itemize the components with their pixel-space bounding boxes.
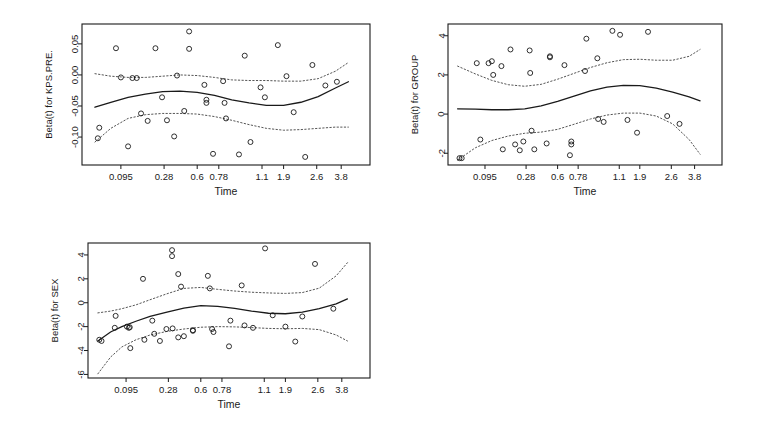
data-point (170, 248, 175, 253)
x-tick-label: 0.78 (210, 171, 229, 182)
data-point (176, 272, 181, 277)
x-tick-label: 2.6 (310, 171, 323, 182)
x-tick-label: 2.6 (665, 171, 678, 182)
data-point (508, 47, 513, 52)
x-tick-label: 0.095 (473, 171, 497, 182)
plot-group: 420-20.0950.280.60.781.11.92.63.8TimeBet… (400, 6, 745, 211)
x-tick-label: 1.9 (277, 171, 290, 182)
data-point (517, 148, 522, 153)
data-point (478, 137, 483, 142)
data-point (176, 335, 181, 340)
data-point (500, 147, 505, 152)
x-tick-label: 0.78 (213, 384, 232, 395)
data-point (284, 74, 289, 79)
data-point (164, 118, 169, 123)
data-point (140, 276, 145, 281)
data-point (625, 117, 630, 122)
data-point (160, 95, 165, 100)
x-tick-label: 0.78 (569, 171, 588, 182)
y-tick-label: -6 (76, 370, 87, 378)
data-point (179, 284, 184, 289)
data-point (618, 32, 623, 37)
y-axis-title: Beta(t) for SEX (49, 278, 60, 343)
lower-confidence-band (458, 113, 700, 160)
data-point (205, 273, 210, 278)
data-point (113, 313, 118, 318)
y-tick-label: 2 (76, 276, 87, 281)
x-tick-label: 1.1 (255, 171, 268, 182)
data-point (258, 85, 263, 90)
data-point (228, 318, 233, 323)
data-point (236, 152, 241, 157)
data-point (323, 83, 328, 88)
data-point (227, 344, 232, 349)
y-tick-label: 4 (76, 252, 87, 257)
data-point (528, 70, 533, 75)
lower-confidence-band (95, 113, 348, 142)
plot-sex: 420-2-4-60.0950.280.60.781.11.92.63.8Tim… (18, 226, 378, 426)
x-axis-title: Time (215, 185, 238, 197)
x-tick-label: 3.8 (335, 384, 348, 395)
lower-confidence-band (98, 327, 348, 374)
x-tick-label: 0.6 (551, 171, 564, 182)
y-axis-title: Beta(t) for GROUP (409, 55, 420, 135)
plot-kps-pre: 0.050.00-0.05-0.100.0950.280.60.781.11.9… (18, 6, 378, 211)
y-axis-title: Beta(t) for KPS.PRE. (43, 50, 54, 139)
data-point (150, 318, 155, 323)
data-point (202, 82, 207, 87)
x-tick-label: 1.9 (279, 384, 292, 395)
x-tick-label: 0.095 (114, 384, 138, 395)
data-point (222, 100, 227, 105)
data-point (635, 130, 640, 135)
data-point (610, 28, 615, 33)
upper-confidence-band (458, 49, 700, 86)
data-point (113, 46, 118, 51)
x-tick-label: 1.9 (633, 171, 646, 182)
data-point (293, 339, 298, 344)
data-point (595, 56, 600, 61)
data-point (239, 283, 244, 288)
data-point (513, 142, 518, 147)
y-tick-label: -2 (436, 149, 447, 157)
data-point (248, 140, 253, 145)
data-point (187, 29, 192, 34)
fitted-curve (458, 85, 700, 109)
data-point (300, 314, 305, 319)
data-point (291, 110, 296, 115)
x-tick-label: 0.6 (191, 171, 204, 182)
y-tick-label: 2 (436, 72, 447, 77)
plot-frame (88, 243, 370, 378)
data-point (331, 306, 336, 311)
x-tick-label: 1.1 (258, 384, 271, 395)
y-tick-label: -2 (76, 322, 87, 330)
panel-group: 420-20.0950.280.60.781.11.92.63.8TimeBet… (400, 6, 745, 211)
data-point (584, 36, 589, 41)
upper-confidence-band (98, 263, 348, 313)
data-point (527, 48, 532, 53)
data-point (499, 64, 504, 69)
data-point (145, 118, 150, 123)
data-point (142, 337, 147, 342)
x-tick-label: 0.28 (517, 171, 536, 182)
data-point (204, 100, 209, 105)
data-point (172, 134, 177, 139)
data-point (118, 75, 123, 80)
y-tick-label: 0.00 (70, 66, 81, 85)
plot-frame (82, 24, 370, 165)
data-point (153, 46, 158, 51)
x-tick-label: 0.28 (155, 171, 174, 182)
data-point (521, 139, 526, 144)
panel-kps-pre: 0.050.00-0.05-0.100.0950.280.60.781.11.9… (18, 6, 378, 211)
data-point (310, 63, 315, 68)
data-point (221, 79, 226, 84)
y-tick-label: -0.05 (70, 95, 81, 117)
data-point (303, 154, 308, 159)
data-point (164, 327, 169, 332)
x-tick-label: 1.1 (613, 171, 626, 182)
data-point (211, 330, 216, 335)
data-point (187, 46, 192, 51)
data-point (601, 119, 606, 124)
data-point (567, 153, 572, 158)
data-point (491, 72, 496, 77)
data-point (665, 114, 670, 119)
